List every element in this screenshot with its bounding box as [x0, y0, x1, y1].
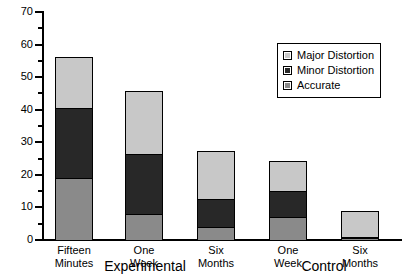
- bar-4-segment-major: [270, 162, 306, 191]
- y-tick-label: 30: [0, 136, 33, 147]
- y-tick-label: 0: [0, 234, 33, 245]
- y-tick-40: [35, 109, 44, 111]
- y-tick-label-text: 50: [5, 71, 33, 82]
- y-tick-label-text: 20: [5, 169, 33, 180]
- bar-2-segment-accurate: [126, 214, 162, 240]
- bar-1-segment-major: [56, 58, 92, 108]
- bar-5: [341, 211, 379, 240]
- y-tick-label: 40: [0, 104, 33, 115]
- bar-3-segment-minor: [198, 199, 234, 227]
- y-tick-minor-45: [38, 92, 44, 94]
- x-label-line1: Six: [179, 244, 253, 257]
- y-tick-minor-5: [38, 223, 44, 225]
- legend-item-minor-distortion: Minor Distortion: [283, 63, 374, 78]
- y-tick-50: [35, 76, 44, 78]
- y-tick-label-text: 40: [5, 104, 33, 115]
- y-tick-label-text: 30: [5, 136, 33, 147]
- y-tick-label-text: 70: [5, 6, 33, 17]
- legend-swatch-icon: [283, 66, 292, 75]
- y-tick-minor-65: [38, 27, 44, 29]
- y-tick-60: [35, 44, 44, 46]
- stacked-bar-chart: 706050403020100 FifteenMinutesOneWeekSix…: [0, 0, 420, 278]
- y-tick-70: [35, 11, 44, 13]
- legend-swatch-icon: [283, 81, 292, 90]
- y-tick-label: 50: [0, 71, 33, 82]
- y-tick-label-text: 60: [5, 39, 33, 50]
- legend-label: Minor Distortion: [297, 65, 374, 76]
- bar-5-segment-accurate: [342, 238, 378, 240]
- legend-item-accurate: Accurate: [283, 78, 374, 93]
- y-tick-30: [35, 141, 44, 143]
- x-axis-group-label-experimental: Experimental: [75, 258, 215, 274]
- chart-legend: Major DistortionMinor DistortionAccurate: [277, 43, 381, 98]
- bar-2-segment-minor: [126, 154, 162, 214]
- y-tick-label: 10: [0, 201, 33, 212]
- legend-swatch-icon: [283, 51, 292, 60]
- y-tick-label-text: 10: [5, 201, 33, 212]
- bar-1: [55, 57, 93, 240]
- y-tick-minor-35: [38, 125, 44, 127]
- bar-1-segment-minor: [56, 108, 92, 178]
- bar-2: [125, 91, 163, 240]
- y-tick-20: [35, 174, 44, 176]
- bar-4: [269, 161, 307, 240]
- legend-item-major-distortion: Major Distortion: [283, 48, 374, 63]
- x-label-line1: Six: [323, 244, 397, 257]
- y-tick-label: 20: [0, 169, 33, 180]
- legend-label: Major Distortion: [297, 50, 374, 61]
- y-tick-label-text: 0: [5, 234, 33, 245]
- bar-5-segment-major: [342, 212, 378, 236]
- y-tick-minor-55: [38, 60, 44, 62]
- y-tick-minor-15: [38, 190, 44, 192]
- x-label-line1: One: [107, 244, 181, 257]
- y-tick-0: [35, 239, 44, 241]
- y-tick-label: 60: [0, 39, 33, 50]
- y-tick-10: [35, 206, 44, 208]
- bar-3-segment-accurate: [198, 227, 234, 240]
- bar-3-segment-major: [198, 152, 234, 199]
- legend-label: Accurate: [297, 80, 340, 91]
- bar-2-segment-major: [126, 92, 162, 154]
- y-tick-minor-25: [38, 158, 44, 160]
- bar-4-segment-accurate: [270, 217, 306, 240]
- x-label-line1: One: [251, 244, 325, 257]
- y-tick-label: 70: [0, 6, 33, 17]
- x-label-line1: Fifteen: [37, 244, 111, 257]
- bar-3: [197, 151, 235, 240]
- bar-1-segment-accurate: [56, 178, 92, 240]
- bar-4-segment-minor: [270, 191, 306, 217]
- x-axis-group-label-control: Control: [254, 258, 394, 274]
